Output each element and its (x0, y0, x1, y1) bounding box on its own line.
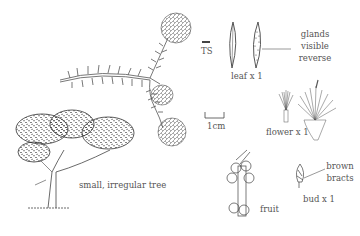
transverse-section-icon (202, 41, 210, 43)
flower-head-middle (151, 85, 173, 105)
bud-illustration (296, 164, 303, 188)
leaf-reverse-illustration (253, 22, 260, 68)
scale-label: 1cm (207, 121, 225, 131)
bracts-label-line1: brown (322, 161, 358, 171)
scale-bar (205, 112, 224, 118)
ts-label: TS (201, 46, 213, 56)
tree-label: small, irregular tree (79, 180, 166, 190)
bud-label: bud x 1 (303, 194, 335, 204)
flower-head-top (161, 13, 191, 43)
fruit-label: fruit (260, 204, 279, 214)
glands-label-line3: reverse (293, 53, 337, 63)
glands-label-line1: glands (293, 29, 337, 39)
flower-head-bottom (158, 118, 186, 146)
tree-habit-illustration (16, 110, 134, 208)
single-flower-illustration (279, 90, 293, 122)
glands-label-line2: visible (293, 41, 337, 51)
bracts-label-line2: bracts (322, 173, 358, 183)
flower-label: flower x 1 (266, 127, 309, 137)
leaf-label: leaf x 1 (231, 71, 263, 81)
fruit-illustration (227, 150, 254, 216)
